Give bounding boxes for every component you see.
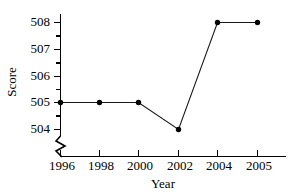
x-tick-label: 2004 [206, 158, 233, 173]
x-axis-title: Year [151, 176, 176, 191]
data-point-marker [176, 127, 181, 132]
x-tick-label: 1996 [49, 158, 76, 173]
y-tick-label: 507 [31, 41, 51, 56]
chart-canvas: 508 507 506 505 504 1996 1998 2000 2002 … [0, 0, 290, 195]
y-axis-title: Score [4, 67, 19, 97]
series-markers-score [58, 20, 260, 132]
data-point-marker [255, 20, 260, 25]
y-axis-tick-labels: 508 507 506 505 504 [31, 14, 51, 136]
x-tick-label: 2005 [246, 158, 272, 173]
y-axis-major-ticks [54, 23, 61, 130]
series-line-score [61, 23, 258, 130]
data-point-marker [215, 20, 220, 25]
line-chart: 508 507 506 505 504 1996 1998 2000 2002 … [0, 0, 290, 195]
y-tick-label: 505 [31, 94, 51, 109]
y-tick-label: 508 [31, 14, 51, 29]
x-tick-label: 1998 [88, 158, 114, 173]
x-axis-tick-labels: 1996 1998 2000 2002 2004 2005 [49, 158, 272, 173]
y-tick-label: 506 [31, 68, 51, 83]
x-tick-label: 2002 [167, 158, 193, 173]
x-tick-label: 2000 [127, 158, 153, 173]
data-point-marker [97, 100, 102, 105]
x-axis-ticks [61, 150, 258, 157]
y-tick-label: 504 [31, 121, 51, 136]
data-point-marker [136, 100, 141, 105]
data-point-marker [58, 100, 63, 105]
